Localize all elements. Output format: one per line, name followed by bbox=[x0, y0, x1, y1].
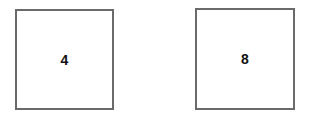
box-right-value: 8 bbox=[241, 52, 249, 66]
box-right: 8 bbox=[195, 8, 295, 110]
box-left: 4 bbox=[15, 9, 114, 110]
box-left-value: 4 bbox=[61, 53, 69, 67]
